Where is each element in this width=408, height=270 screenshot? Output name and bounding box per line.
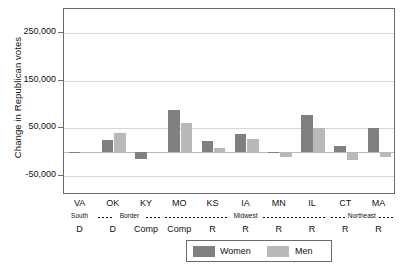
gridline xyxy=(64,176,394,177)
x-axis-label-ma: MA xyxy=(356,198,400,208)
bar-mo-men xyxy=(181,123,193,153)
bar-ky-women xyxy=(135,152,147,159)
y-axis-tick xyxy=(58,127,63,128)
region-rule xyxy=(263,217,327,218)
legend-swatch-men xyxy=(267,246,289,257)
y-axis-tick xyxy=(58,175,63,176)
legend-swatch-women xyxy=(193,246,215,257)
bar-ok-women xyxy=(102,140,114,152)
region-rule xyxy=(98,217,112,218)
x-axis-party-labels: DDCompCompRRRRRR xyxy=(63,224,395,236)
bar-ks-men xyxy=(214,148,226,152)
gridline xyxy=(64,81,394,82)
y-axis-title: Change in Republican votes xyxy=(12,13,23,183)
x-axis-state-labels: VAOKKYMOKSIAMNILCTMA xyxy=(63,198,395,210)
bar-mn-men xyxy=(280,152,292,157)
bar-ky-men xyxy=(147,152,159,153)
bar-ma-women xyxy=(368,128,380,152)
gridline xyxy=(64,128,394,129)
y-axis-tick-label: 250,000 xyxy=(23,26,56,36)
legend-label-women: Women xyxy=(220,246,251,257)
bar-il-women xyxy=(301,115,313,152)
party-label-ma: R xyxy=(356,224,400,234)
x-axis-region-labels: SouthBorderMidwestNortheast xyxy=(63,212,395,222)
region-rule xyxy=(379,217,393,218)
bar-ct-women xyxy=(334,146,346,152)
region-rule xyxy=(165,217,229,218)
bar-ks-women xyxy=(202,141,214,152)
legend-label-men: Men xyxy=(295,246,313,257)
y-axis-tick xyxy=(58,32,63,33)
bar-ma-men xyxy=(380,152,392,157)
region-rule xyxy=(331,217,345,218)
gridline xyxy=(64,33,394,34)
chart-legend: Women Men xyxy=(186,240,332,262)
bar-mn-women xyxy=(268,152,280,153)
bar-ia-men xyxy=(247,139,259,152)
region-rule xyxy=(146,217,160,218)
plot-area xyxy=(63,8,395,194)
bar-ia-women xyxy=(235,134,247,152)
zero-line xyxy=(64,152,394,153)
bar-mo-women xyxy=(168,110,180,152)
bar-il-men xyxy=(313,128,325,152)
chart-figure: Change in Republican votes 250,000150,00… xyxy=(0,0,408,270)
bar-va-women xyxy=(69,152,81,153)
y-axis-tick-label: 50,000 xyxy=(28,121,56,131)
y-axis-tick-label: 150,000 xyxy=(23,74,56,84)
y-axis-tick-label: -50,000 xyxy=(25,169,56,179)
bar-ct-men xyxy=(347,152,359,160)
bar-ok-men xyxy=(114,133,126,152)
bar-va-men xyxy=(81,152,93,153)
y-axis-tick xyxy=(58,80,63,81)
